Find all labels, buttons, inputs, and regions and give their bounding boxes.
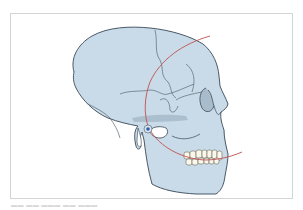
skull-illustration [0, 0, 303, 210]
figure-caption: ▬▬ ▬▬ ▬▬▬ ▬▬ ▬▬▬ [11, 201, 98, 209]
condyle-point [146, 127, 150, 131]
